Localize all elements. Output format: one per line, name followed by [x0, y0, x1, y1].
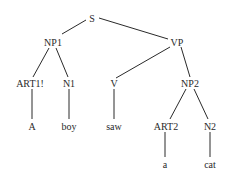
node-n1: N1 — [63, 78, 75, 89]
edge-s-vp — [99, 18, 168, 39]
node-v: V — [110, 78, 118, 89]
edge-np2-art2 — [170, 89, 186, 119]
node-vp: VP — [171, 37, 184, 48]
edge-vp-np2 — [181, 47, 190, 77]
edge-np2-n2 — [194, 89, 208, 119]
node-a: a — [163, 159, 168, 170]
edge-s-np1 — [62, 20, 86, 34]
node-np2: NP2 — [181, 78, 199, 89]
node-cat: cat — [204, 159, 216, 170]
node-boy: boy — [62, 121, 77, 132]
parse-tree-diagram: SNP1VPART1!N1VNP2AboysawART2N2acat — [0, 0, 232, 176]
node-n2: N2 — [204, 121, 216, 132]
edge-np1-art1 — [33, 48, 49, 77]
node-a: A — [28, 121, 36, 132]
node-art2: ART2 — [154, 121, 178, 132]
node-np1: NP1 — [44, 37, 62, 48]
edge-np1-n1 — [56, 48, 68, 77]
node-art1: ART1! — [16, 78, 44, 89]
node-s: S — [89, 13, 95, 24]
tree-nodes: SNP1VPART1!N1VNP2AboysawART2N2acat — [16, 13, 216, 170]
node-saw: saw — [106, 121, 122, 132]
edge-vp-v — [116, 47, 170, 78]
